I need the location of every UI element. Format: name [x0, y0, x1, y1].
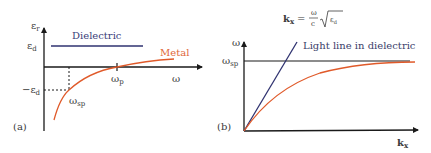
- panel-b-label: (b): [217, 121, 231, 132]
- metal-curve: [54, 59, 174, 120]
- panel-a-y-axis-label: εr: [31, 20, 40, 33]
- formula-lhs: kx: [283, 13, 295, 26]
- dispersion-formula: kx = ω c εd: [283, 9, 343, 28]
- panel-a-x-axis-label: ω: [172, 73, 180, 84]
- formula-radicand: εd: [330, 16, 338, 25]
- spp-dispersion-curve: [244, 62, 415, 131]
- panel-b-y-axis-label: ω: [232, 37, 240, 48]
- panel-b-x-axis-label: kx: [397, 137, 409, 150]
- panel-b: kx = ω c εd Light line in dielectric ω ω…: [217, 9, 418, 150]
- panel-a: εr εd −εd Dielectric Metal ωp ω ωsp (a): [13, 20, 202, 132]
- omega-p-label: ωp: [111, 73, 124, 86]
- formula-denominator: c: [311, 20, 315, 28]
- dielectric-label: Dielectric: [72, 30, 122, 41]
- panel-a-label: (a): [13, 121, 27, 132]
- metal-label: Metal: [160, 47, 189, 58]
- formula-numerator: ω: [311, 9, 317, 17]
- light-line-label: Light line in dielectric: [303, 40, 416, 51]
- diagram-canvas: εr εd −εd Dielectric Metal ωp ω ωsp (a) …: [0, 0, 431, 153]
- formula-equals: =: [297, 13, 305, 24]
- eps-d-label: εd: [27, 40, 37, 53]
- panel-b-x-axis: [244, 130, 418, 131]
- neg-eps-d-label: −εd: [22, 84, 41, 97]
- light-line: [244, 42, 297, 131]
- omega-sp-label: ωsp: [69, 95, 86, 108]
- panel-b-omega-sp-label: ωsp: [222, 55, 239, 68]
